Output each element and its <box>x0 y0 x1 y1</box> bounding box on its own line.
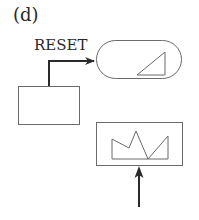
diagram-canvas <box>0 0 199 220</box>
jagged-waveform-icon <box>112 131 168 159</box>
reset-connector-arrow <box>49 61 94 86</box>
ramp-waveform-icon <box>137 52 165 75</box>
source-block <box>19 87 80 125</box>
